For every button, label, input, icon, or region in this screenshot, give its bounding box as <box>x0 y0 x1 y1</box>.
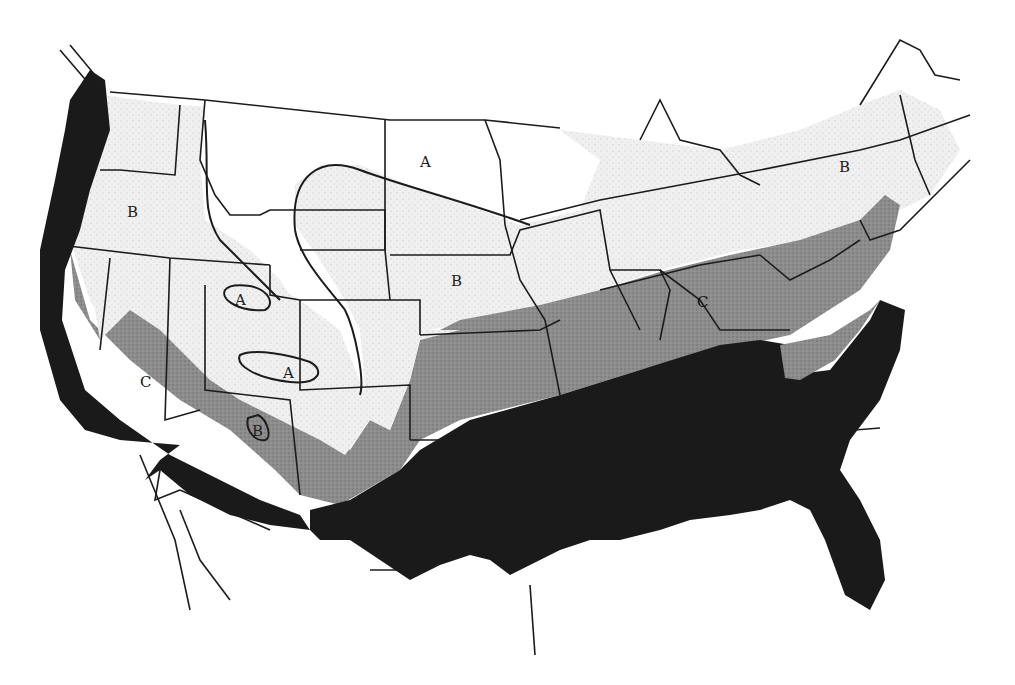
label-c-california: C <box>140 373 151 391</box>
label-b-arizona: B <box>252 422 263 440</box>
label-b-oregon: B <box>127 203 138 221</box>
climate-zone-map: A B A A B B C C B <box>0 0 1015 685</box>
label-b-new-york: B <box>839 158 850 176</box>
label-a-north-dakota: A <box>419 153 431 171</box>
label-a-utah-south: A <box>282 364 294 382</box>
label-a-utah-north: A <box>234 291 246 309</box>
label-c-tennessee: C <box>697 293 708 311</box>
label-b-kansas: B <box>451 272 462 290</box>
